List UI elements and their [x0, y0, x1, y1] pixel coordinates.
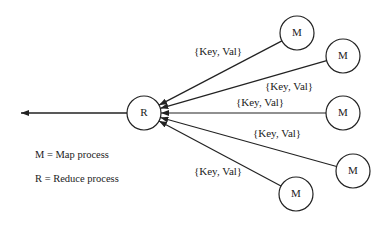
legend-entry: M = Map process [35, 150, 109, 161]
edge-label-key-val: {Key, Val} [236, 97, 284, 108]
map-node-label: M [326, 50, 360, 61]
edge-label-key-val: {Key, Val} [253, 128, 301, 139]
reduce-node-label: R [127, 107, 161, 118]
edge-label-key-val: {Key, Val} [194, 46, 242, 57]
edge-label-key-val: {Key, Val} [265, 81, 313, 92]
map-to-reduce-edge [160, 118, 336, 167]
map-node-label: M [279, 188, 313, 199]
edge-label-key-val: {Key, Val} [194, 166, 242, 177]
map-node-label: M [336, 165, 370, 176]
map-node-label: M [326, 107, 360, 118]
map-node-label: M [280, 27, 314, 38]
legend-entry: R = Reduce process [35, 174, 119, 185]
